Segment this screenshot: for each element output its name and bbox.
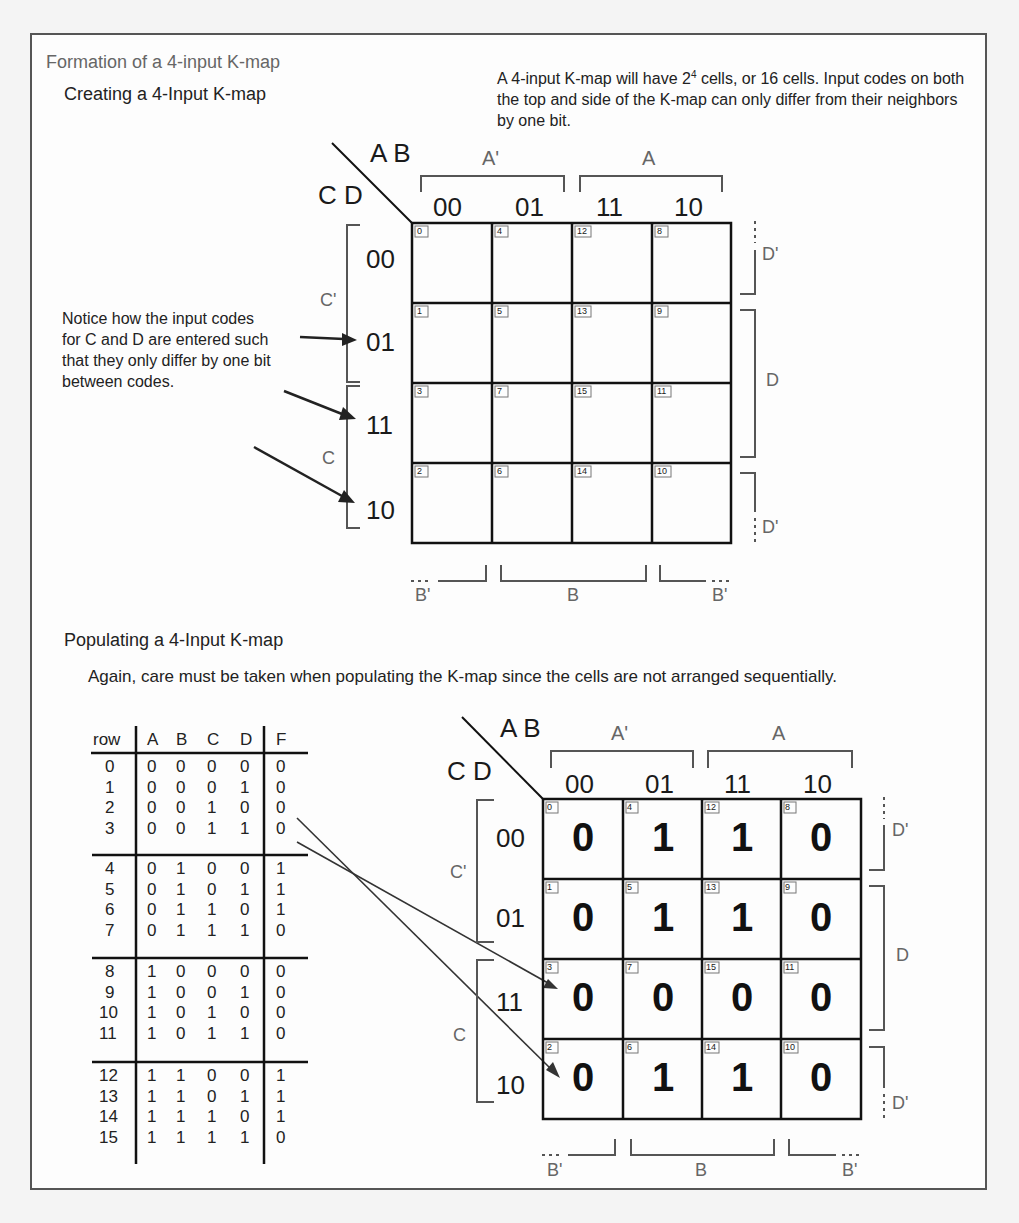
kmap2-right-group-d-prime-bottom: D' xyxy=(892,1093,908,1114)
truth-table-cell: 0 xyxy=(207,859,216,879)
truth-table-cell: 0 xyxy=(147,921,156,941)
kmap2-col-code-0: 00 xyxy=(565,769,594,800)
truth-table-cell: 1 xyxy=(147,1003,156,1023)
truth-table-cell: 1 xyxy=(276,1107,285,1127)
truth-table-cell: 1 xyxy=(176,880,185,900)
kmap2-right-group-d: D xyxy=(896,945,909,966)
truth-table-cell: 1 xyxy=(276,1066,285,1086)
kmap2-cell-value: 0 xyxy=(781,815,861,860)
truth-table-cell: 1 xyxy=(276,900,285,920)
kmap2-cell-index: 5 xyxy=(627,882,632,892)
truth-table-cell: 1 xyxy=(276,859,285,879)
kmap2-cell-index: 9 xyxy=(785,882,790,892)
kmap2-row-code-0: 00 xyxy=(496,823,525,854)
truth-table-cell: 0 xyxy=(240,900,249,920)
kmap2-cell-index: 10 xyxy=(785,1042,795,1052)
truth-table-cell: 0 xyxy=(240,962,249,982)
kmap2-cell-value: 0 xyxy=(543,1055,623,1100)
kmap2-side-variable: C D xyxy=(447,756,492,787)
truth-table-cell: 0 xyxy=(207,1066,216,1086)
truth-table-cell: 1 xyxy=(147,1024,156,1044)
truth-table-cell: 0 xyxy=(176,778,185,798)
truth-table-cell: 1 xyxy=(240,1087,249,1107)
truth-table-cell: 1 xyxy=(176,859,185,879)
truth-table-cell: 1 xyxy=(176,1128,185,1148)
truth-table-cell: 0 xyxy=(276,1003,285,1023)
kmap2-col-code-2: 11 xyxy=(724,769,751,800)
truth-table-cell: 0 xyxy=(176,757,185,777)
truth-table-row-index: 1 xyxy=(105,778,114,798)
kmap2-top-variable: A B xyxy=(500,713,540,744)
truth-table-cell: 0 xyxy=(147,880,156,900)
kmap2-cell-index: 4 xyxy=(627,802,632,812)
kmap2-col-code-3: 10 xyxy=(803,769,832,800)
kmap2-cell-index: 12 xyxy=(706,802,716,812)
truth-table-row-index: 6 xyxy=(105,900,114,920)
kmap2-cell-value: 0 xyxy=(543,815,623,860)
truth-table-cell: 1 xyxy=(207,1107,216,1127)
truth-table-header-c: C xyxy=(207,730,219,750)
kmap2-cell-value: 1 xyxy=(623,1055,703,1100)
truth-table-cell: 1 xyxy=(240,1024,249,1044)
kmap2-cell-index: 13 xyxy=(706,882,716,892)
kmap2-top-group-a: A xyxy=(772,722,785,745)
truth-table-cell: 0 xyxy=(276,778,285,798)
truth-table-cell: 1 xyxy=(207,1003,216,1023)
truth-table-row-index: 4 xyxy=(105,859,114,879)
truth-table-cell: 1 xyxy=(176,1066,185,1086)
kmap2-cell-value: 0 xyxy=(543,895,623,940)
truth-table-cell: 1 xyxy=(207,1128,216,1148)
kmap2-cell-value: 0 xyxy=(623,975,703,1020)
truth-table-cell: 1 xyxy=(207,1024,216,1044)
kmap2-cell-index: 14 xyxy=(706,1042,716,1052)
truth-table-row-index: 3 xyxy=(105,819,114,839)
kmap2-cell-index: 3 xyxy=(547,962,552,972)
kmap2-cell-value: 0 xyxy=(781,895,861,940)
kmap2-cell-value: 1 xyxy=(623,895,703,940)
kmap2-cell-value: 1 xyxy=(623,815,703,860)
truth-table-cell: 1 xyxy=(240,880,249,900)
truth-table-row-index: 0 xyxy=(105,757,114,777)
truth-table-cell: 1 xyxy=(147,1128,156,1148)
truth-table-cell: 0 xyxy=(240,798,249,818)
kmap2-cell-value: 0 xyxy=(543,975,623,1020)
truth-table-cell: 1 xyxy=(147,962,156,982)
kmap2-cell-index: 11 xyxy=(785,962,794,972)
kmap2-right-group-d-prime-top: D' xyxy=(892,820,908,841)
kmap2-bottom-group-b: B xyxy=(695,1160,707,1181)
truth-table-cell: 0 xyxy=(176,983,185,1003)
truth-table-cell: 0 xyxy=(240,757,249,777)
truth-table-cell: 0 xyxy=(240,1003,249,1023)
truth-table-row-index: 11 xyxy=(99,1024,117,1044)
truth-table-cell: 0 xyxy=(207,962,216,982)
truth-table-cell: 0 xyxy=(207,880,216,900)
truth-table-cell: 0 xyxy=(207,778,216,798)
truth-table-header-d: D xyxy=(240,730,252,750)
truth-table-cell: 1 xyxy=(147,983,156,1003)
truth-table-row-index: 14 xyxy=(99,1107,118,1127)
kmap2-cell-value: 0 xyxy=(781,975,861,1020)
truth-table-row-index: 13 xyxy=(99,1087,118,1107)
truth-table-cell: 0 xyxy=(147,819,156,839)
truth-table-row-index: 9 xyxy=(105,983,114,1003)
truth-table-cell: 1 xyxy=(207,798,216,818)
kmap2-row-code-2: 11 xyxy=(496,987,523,1018)
kmap2-cell-index: 0 xyxy=(547,802,552,812)
truth-table-header-b: B xyxy=(176,730,187,750)
truth-table-cell: 0 xyxy=(276,921,285,941)
kmap2-left-group-c-prime: C' xyxy=(450,862,466,883)
truth-table-cell: 0 xyxy=(147,778,156,798)
truth-table-row-index: 15 xyxy=(99,1128,118,1148)
truth-table-cell: 1 xyxy=(240,1128,249,1148)
truth-table-cell: 1 xyxy=(240,983,249,1003)
truth-table-header-row: row xyxy=(93,730,120,750)
truth-table-cell: 1 xyxy=(240,778,249,798)
truth-table-cell: 1 xyxy=(240,819,249,839)
truth-table-cell: 0 xyxy=(276,757,285,777)
truth-table-cell: 0 xyxy=(176,1003,185,1023)
truth-table-cell: 0 xyxy=(147,900,156,920)
truth-table-cell: 0 xyxy=(276,819,285,839)
truth-table-cell: 1 xyxy=(207,900,216,920)
kmap2-cell-index: 15 xyxy=(706,962,716,972)
truth-table-cell: 0 xyxy=(207,983,216,1003)
